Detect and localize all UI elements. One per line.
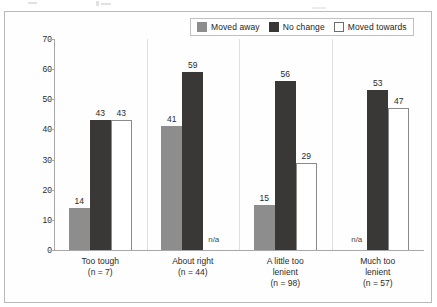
y-axis-tick-mark [49, 250, 54, 251]
x-axis-category-label: Too tough(n = 7) [48, 256, 152, 278]
white-swatch-icon [334, 22, 344, 32]
bar [69, 208, 90, 250]
bar-group: 4159n/a [147, 39, 240, 250]
bar-value-label: 47 [382, 96, 416, 106]
category-sample-size: (n = 98) [233, 278, 337, 289]
legend-item-no-change: No change [269, 22, 325, 32]
category-sample-size: (n = 44) [141, 267, 245, 278]
bar [254, 205, 275, 250]
bar [367, 90, 388, 250]
bar [296, 163, 317, 250]
legend-item-moved-away: Moved away [197, 22, 260, 32]
category-name-line: About right [141, 256, 245, 267]
bar [90, 120, 111, 250]
category-name-line: lenient [326, 267, 430, 278]
bar [182, 72, 203, 250]
category-sample-size: (n = 7) [48, 267, 152, 278]
legend-label-moved-away: Moved away [211, 22, 260, 32]
chart-legend: Moved away No change Moved towards [190, 18, 414, 36]
bar [388, 108, 409, 250]
bar [161, 126, 182, 250]
bar-group: n/a5347 [332, 39, 425, 250]
category-name-line: Much too [326, 256, 430, 267]
bar [111, 120, 132, 250]
bar-group: 144343 [54, 39, 147, 250]
scan-artifacts [0, 0, 437, 11]
legend-item-moved-towards: Moved towards [334, 22, 407, 32]
bar-value-label: 59 [176, 60, 210, 70]
x-axis-line [54, 250, 424, 251]
category-name-line: A little too [233, 256, 337, 267]
x-axis-category-label: Much toolenient(n = 57) [326, 256, 430, 289]
bar-value-label: 43 [104, 108, 138, 118]
gray-swatch-icon [197, 22, 207, 32]
category-name-line: Too tough [48, 256, 152, 267]
bar-value-label: 56 [268, 69, 302, 79]
legend-label-no-change: No change [283, 22, 325, 32]
plot-area: 010203040506070 1443434159n/a155629n/a53… [54, 39, 424, 250]
dark-swatch-icon [269, 22, 279, 32]
category-sample-size: (n = 57) [326, 278, 430, 289]
bar [275, 81, 296, 250]
x-axis-category-labels: Too tough(n = 7)About right(n = 44)A lit… [54, 256, 424, 306]
bar-group: 155629 [239, 39, 332, 250]
figure-frame: Moved away No change Moved towards 01020… [4, 11, 432, 303]
x-axis-category-label: A little toolenient(n = 98) [233, 256, 337, 289]
na-label: n/a [197, 235, 231, 244]
bar-value-label: 29 [289, 151, 323, 161]
category-name-line: lenient [233, 267, 337, 278]
bar-value-label: 53 [361, 78, 395, 88]
x-axis-category-label: About right(n = 44) [141, 256, 245, 278]
legend-label-moved-towards: Moved towards [348, 22, 407, 32]
